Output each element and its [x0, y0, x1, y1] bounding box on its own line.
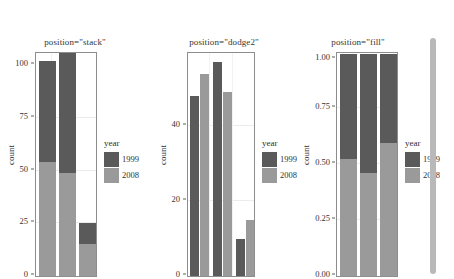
bar-segment-1999: [39, 61, 56, 162]
ytick-mark-stack-100: [31, 63, 34, 64]
legend-swatch-1999: [104, 152, 119, 167]
legend-title: year: [262, 138, 297, 148]
bar-segment-2008: [59, 173, 76, 276]
bar-segment-1999: [360, 54, 377, 173]
bar-segment-1999: [380, 54, 397, 143]
bar-segment-1999: [59, 52, 76, 172]
bar-dodge2-3-1999: [236, 239, 245, 277]
ytick-label-dodge2-0: 0: [152, 269, 180, 279]
ytick-mark-dodge2-40: [183, 124, 186, 125]
ytick-label-dodge2-40: 40: [152, 119, 180, 129]
bar-dodge2-1-1999: [190, 96, 199, 276]
legend-swatch-2008: [262, 168, 277, 183]
legend-swatch-1999: [262, 152, 277, 167]
ytick-mark-dodge2-20: [183, 199, 186, 200]
plot-area-fill: [336, 52, 398, 277]
bar-stack-2: [59, 52, 76, 276]
legend-item-2008[interactable]: 2008: [262, 167, 297, 183]
bar-fill-1: [340, 54, 357, 276]
ytick-mark-fill-050: [332, 162, 335, 163]
bar-segment-2008: [380, 143, 397, 276]
legend-swatch-2008: [104, 168, 119, 183]
legend-item-1999[interactable]: 1999: [104, 151, 139, 167]
legend-swatch-1999: [405, 152, 420, 167]
ytick-mark-stack-50: [31, 168, 34, 169]
panel-title-fill: position="fill": [298, 37, 418, 47]
bar-stack-1: [39, 61, 56, 276]
legend-label-2008: 2008: [122, 170, 139, 180]
legend-dodge2: year 1999 2008: [262, 138, 297, 183]
ytick-label-fill-050: 0.50: [294, 157, 330, 167]
bar-segment-2008: [360, 173, 377, 276]
ytick-label-stack-25: 25: [0, 216, 28, 226]
ytick-mark-stack-75: [31, 115, 34, 116]
ytick-label-stack-75: 75: [0, 111, 28, 121]
bar-segment-2008: [340, 159, 357, 276]
ytick-label-fill-100: 1.00: [294, 52, 330, 62]
bar-dodge2-1-2008: [200, 74, 209, 277]
ytick-mark-fill-100: [332, 57, 335, 58]
ytick-label-stack-50: 50: [0, 164, 28, 174]
plot-area-stack: [35, 52, 97, 277]
gridline-v-dodge2-1: [209, 53, 210, 276]
bar-fill-3: [380, 54, 397, 276]
ytick-mark-fill-000: [332, 274, 335, 275]
panel-stack: position="stack" count 0 25 50 75 100: [0, 0, 150, 274]
ytick-mark-fill-075: [332, 106, 335, 107]
ytick-label-stack-100: 100: [0, 58, 28, 68]
y-axis-title-dodge2: count: [158, 135, 168, 175]
ytick-label-fill-000: 0.00: [294, 269, 330, 279]
bar-segment-2008: [79, 244, 96, 276]
legend-stack: year 1999 2008: [104, 138, 139, 183]
ytick-mark-fill-025: [332, 218, 335, 219]
panel-title-stack: position="stack": [0, 37, 150, 47]
legend-swatch-2008: [405, 168, 420, 183]
vertical-scrollbar[interactable]: [430, 38, 436, 274]
legend-item-2008[interactable]: 2008: [104, 167, 139, 183]
ytick-mark-stack-0: [31, 274, 34, 275]
panel-dodge2: position="dodge2" count 0 20 40 year: [150, 0, 298, 274]
ytick-label-stack-0: 0: [0, 269, 28, 279]
ytick-mark-stack-25: [31, 221, 34, 222]
ytick-label-fill-025: 0.25: [294, 213, 330, 223]
legend-label-2008: 2008: [280, 170, 297, 180]
ytick-label-dodge2-20: 20: [152, 194, 180, 204]
bar-dodge2-3-2008: [246, 220, 255, 276]
plot-area-dodge2: [187, 52, 255, 277]
legend-label-1999: 1999: [122, 154, 139, 164]
bar-fill-2: [360, 54, 377, 276]
bar-dodge2-2-1999: [213, 62, 222, 276]
bar-segment-1999: [79, 223, 96, 244]
ytick-mark-dodge2-0: [183, 274, 186, 275]
bar-segment-2008: [39, 162, 56, 276]
bar-stack-3: [79, 223, 96, 276]
y-axis-title-fill: count: [301, 135, 311, 175]
bar-segment-1999: [340, 54, 357, 159]
ytick-label-fill-075: 0.75: [294, 101, 330, 111]
legend-item-1999[interactable]: 1999: [262, 151, 297, 167]
gridline-v-dodge2-2: [232, 53, 233, 276]
panel-title-dodge2: position="dodge2": [150, 37, 298, 47]
legend-title: year: [104, 138, 139, 148]
bar-dodge2-2-2008: [223, 92, 232, 276]
